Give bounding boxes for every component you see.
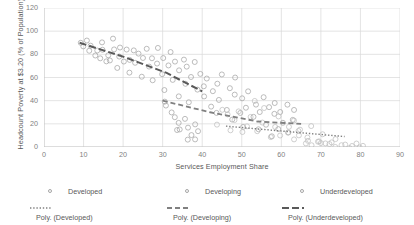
data-point: [292, 137, 297, 142]
data-point: [170, 77, 175, 82]
data-point: [155, 61, 160, 66]
data-point: [185, 137, 190, 142]
x-tick-label: 40: [192, 150, 212, 159]
data-point: [214, 122, 219, 127]
y-tick-label: 40: [18, 96, 38, 105]
open-circle-marker: [185, 189, 189, 193]
data-point: [172, 115, 177, 120]
data-point: [210, 89, 215, 94]
data-point: [272, 101, 277, 106]
data-point: [333, 137, 338, 142]
data-point: [189, 74, 194, 79]
x-axis-title: Services Employment Share: [44, 162, 400, 171]
x-tick-label: 90: [390, 150, 410, 159]
data-point: [192, 59, 197, 64]
data-point: [112, 47, 117, 52]
data-point: [228, 128, 233, 133]
dotted-line-marker: [30, 204, 52, 212]
legend-item-developed[interactable]: Developed: [48, 186, 102, 196]
data-point: [150, 78, 155, 83]
data-point: [87, 48, 92, 53]
legend-label: Developed: [68, 187, 102, 196]
data-point: [106, 53, 111, 58]
data-point: [124, 47, 129, 52]
data-point: [216, 97, 221, 102]
open-circle-marker: [300, 189, 304, 193]
data-point: [169, 110, 174, 115]
data-point: [276, 114, 281, 119]
data-point: [182, 116, 187, 121]
legend-item-developing[interactable]: Developing: [185, 186, 241, 196]
data-point: [219, 72, 224, 77]
series-underdeveloped: [78, 36, 203, 105]
trendline-polydeveloped: [226, 126, 345, 136]
x-tick-label: 60: [271, 150, 291, 159]
data-point: [84, 38, 89, 43]
data-point: [193, 122, 198, 127]
data-point: [107, 58, 112, 63]
data-point: [160, 72, 165, 77]
data-point: [264, 122, 269, 127]
y-tick-label: 120: [18, 3, 38, 12]
data-point: [131, 48, 136, 53]
data-point: [262, 106, 267, 111]
data-point: [309, 124, 314, 129]
gridlines: [44, 8, 400, 147]
data-point: [186, 125, 191, 130]
x-tick-label: 30: [153, 150, 173, 159]
data-point: [93, 53, 98, 58]
dashed-line-marker: [167, 204, 189, 212]
open-circle-marker: [48, 189, 52, 193]
data-point: [227, 86, 232, 91]
plot-area: [44, 8, 400, 147]
data-point: [286, 124, 291, 129]
chart-legend: DevelopedDevelopingUnderdevelopedPoly. (…: [0, 186, 414, 222]
data-point: [246, 89, 251, 94]
legend-label: Poly. (Underdeveloped): [288, 213, 363, 222]
data-point: [166, 63, 171, 68]
legend-label: Poly. (Developed): [36, 213, 93, 222]
data-point: [161, 56, 166, 61]
x-tick-label: 20: [113, 150, 133, 159]
data-point: [309, 143, 314, 147]
legend-item-polydeveloping[interactable]: Poly. (Developing): [167, 204, 231, 222]
data-point: [172, 59, 177, 64]
data-point: [196, 129, 201, 134]
y-tick-label: 60: [18, 73, 38, 82]
y-tick-label: 20: [18, 119, 38, 128]
data-point: [136, 51, 141, 56]
data-point: [118, 45, 123, 50]
data-point: [248, 114, 253, 119]
data-point: [215, 81, 220, 86]
scatter-chart: Headcount Poverty at $3.20 (% of Populat…: [0, 0, 414, 225]
data-point: [343, 142, 348, 147]
data-point: [98, 56, 103, 61]
x-tick-label: 80: [350, 150, 370, 159]
data-point: [267, 105, 272, 110]
x-tick-label: 0: [34, 150, 54, 159]
legend-item-polyunderdeveloped[interactable]: Poly. (Underdeveloped): [282, 204, 363, 222]
legend-label: Poly. (Developing): [173, 213, 231, 222]
data-point: [184, 64, 189, 69]
legend-label: Underdeveloped: [320, 187, 373, 196]
legend-row-markers: DevelopedDevelopingUnderdeveloped: [0, 186, 414, 201]
data-point: [168, 50, 173, 55]
data-point: [155, 45, 160, 50]
data-point: [121, 59, 126, 64]
legend-label: Developing: [205, 187, 241, 196]
data-point: [285, 102, 290, 107]
data-point: [261, 95, 266, 100]
x-tick-label: 50: [232, 150, 252, 159]
data-point: [177, 68, 182, 73]
y-tick-label: 80: [18, 49, 38, 58]
data-point: [305, 135, 310, 140]
data-point: [149, 56, 154, 61]
legend-row-trendlines: Poly. (Developed)Poly. (Developing)Poly.…: [0, 204, 414, 219]
data-point: [144, 46, 149, 51]
data-point: [240, 130, 245, 135]
legend-item-underdeveloped[interactable]: Underdeveloped: [300, 186, 373, 196]
legend-item-polydeveloped[interactable]: Poly. (Developed): [30, 204, 93, 222]
data-point: [298, 127, 303, 132]
data-point: [139, 74, 144, 79]
data-point: [111, 36, 116, 41]
